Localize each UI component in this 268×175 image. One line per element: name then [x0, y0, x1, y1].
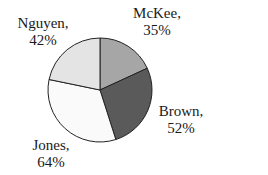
label-jones-name: Jones, — [20, 137, 82, 154]
label-brown-name: Brown, — [150, 103, 212, 120]
label-jones-pct: 64% — [20, 154, 82, 171]
label-brown: Brown, 52% — [150, 103, 212, 137]
label-nguyen-pct: 42% — [12, 32, 74, 49]
label-mckee-pct: 35% — [126, 22, 188, 39]
label-jones: Jones, 64% — [20, 137, 82, 171]
label-brown-pct: 52% — [150, 120, 212, 137]
label-mckee-name: McKee, — [126, 5, 188, 22]
label-nguyen: Nguyen, 42% — [12, 15, 74, 49]
label-nguyen-name: Nguyen, — [12, 15, 74, 32]
label-mckee: McKee, 35% — [126, 5, 188, 39]
